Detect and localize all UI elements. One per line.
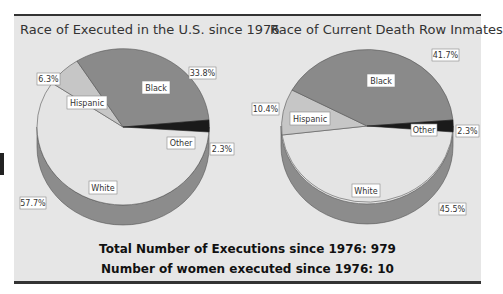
svg-text:Hispanic: Hispanic (70, 99, 104, 108)
left-pct-hispanic: 6.3% (37, 73, 60, 85)
right-pct-hispanic: 10.4% (252, 103, 279, 115)
left-label-black: Black (142, 81, 170, 94)
right-label-hispanic: Hispanic (290, 112, 330, 125)
left-pie: Black 33.8% Hispanic 6.3% Other 2.3% Whi… (20, 49, 234, 225)
left-pct-white: 57.7% (20, 197, 46, 209)
right-label-white: White (352, 184, 380, 197)
svg-text:10.4%: 10.4% (253, 105, 279, 114)
svg-text:White: White (354, 187, 377, 196)
svg-text:45.5%: 45.5% (440, 205, 466, 214)
left-label-white: White (89, 181, 117, 194)
right-pie: Black 41.7% Hispanic 10.4% Other 2.3% Wh… (252, 49, 479, 224)
svg-text:33.8%: 33.8% (190, 69, 216, 78)
svg-text:Black: Black (370, 77, 392, 86)
left-label-other: Other (167, 137, 195, 149)
svg-text:White: White (91, 184, 114, 193)
right-pct-white: 45.5% (439, 203, 466, 215)
svg-text:2.3%: 2.3% (212, 145, 233, 154)
svg-text:Other: Other (413, 126, 436, 135)
left-pct-other: 2.3% (210, 143, 234, 155)
svg-text:41.7%: 41.7% (433, 51, 459, 60)
edge-marker (0, 153, 4, 175)
right-pct-black: 41.7% (432, 49, 459, 61)
svg-text:Black: Black (145, 84, 167, 93)
svg-text:2.3%: 2.3% (457, 127, 478, 136)
chart-panel: Race of Executed in the U.S. since 1976 … (14, 14, 481, 284)
right-label-black: Black (367, 74, 395, 87)
right-label-other: Other (411, 124, 437, 136)
svg-text:Hispanic: Hispanic (293, 115, 327, 124)
svg-text:6.3%: 6.3% (38, 75, 59, 84)
right-pct-other: 2.3% (456, 125, 479, 137)
svg-text:Other: Other (170, 139, 193, 148)
left-label-hispanic: Hispanic (67, 96, 107, 109)
svg-text:57.7%: 57.7% (20, 199, 46, 208)
left-pct-black: 33.8% (189, 67, 216, 79)
total-executions-text: Total Number of Executions since 1976: 9… (14, 242, 481, 256)
women-executed-text: Number of women executed since 1976: 10 (14, 262, 481, 276)
